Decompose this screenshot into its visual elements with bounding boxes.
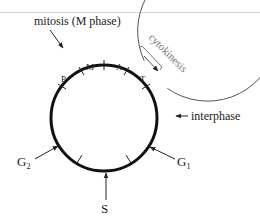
g2-arrow: [35, 146, 58, 159]
s-label: S: [101, 201, 108, 216]
interphase-label: interphase: [191, 109, 240, 123]
prophase-label: P: [61, 74, 66, 84]
outer-interphase-ring: [138, 0, 260, 101]
anaphase-label: A: [116, 62, 123, 72]
mitosis-label: mitosis (M phase): [34, 14, 121, 28]
g1-label: G1: [177, 154, 190, 171]
metaphase-label: M: [86, 62, 94, 72]
cytokinesis-arrow: [144, 56, 158, 71]
g1-arrow: [150, 147, 175, 159]
cell-cycle-diagram: P M A T mitosis (M phase) cytokinesis in…: [0, 0, 260, 220]
telophase-label: T: [140, 74, 146, 84]
cytokinesis-label: cytokinesis: [147, 31, 190, 74]
g2-label: G2: [17, 154, 30, 171]
mitosis-arrow: [50, 30, 63, 48]
